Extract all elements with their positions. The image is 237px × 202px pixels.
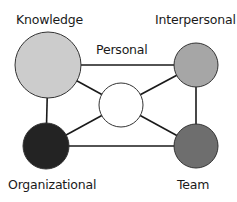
- label-personal: Personal: [96, 42, 148, 57]
- label-team: Team: [177, 177, 209, 192]
- node-team: [174, 124, 218, 168]
- label-interpersonal: Interpersonal: [155, 12, 236, 27]
- label-knowledge: Knowledge: [16, 12, 83, 27]
- node-organizational: [23, 123, 69, 169]
- node-knowledge: [15, 32, 81, 98]
- node-interpersonal: [174, 43, 218, 87]
- label-organizational: Organizational: [8, 177, 96, 192]
- node-personal: [99, 83, 143, 127]
- network-diagram: [0, 0, 237, 202]
